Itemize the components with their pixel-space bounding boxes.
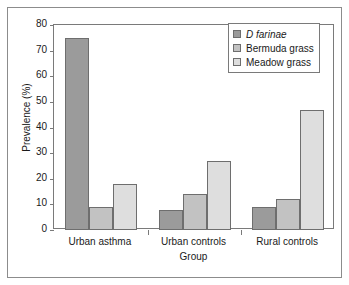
y-axis-tick: 50 <box>14 102 54 103</box>
y-axis-tick-label: 50 <box>36 95 47 106</box>
bar <box>65 38 89 230</box>
x-axis-group-label: Urban controls <box>147 236 241 247</box>
legend-item: D farinae <box>233 27 314 41</box>
y-axis-tick-label: 70 <box>36 44 47 55</box>
y-axis-tick-label: 10 <box>36 197 47 208</box>
y-axis-tick-mark <box>50 230 54 231</box>
y-axis-title: Prevalence (%) <box>21 53 32 183</box>
chart-legend: D farinaeBermuda grassMeadow grass <box>228 23 320 73</box>
bar <box>183 194 207 230</box>
y-axis-tick: 80 <box>14 25 54 26</box>
y-axis-tick-label: 30 <box>36 146 47 157</box>
legend-label: Meadow grass <box>246 57 311 68</box>
bar <box>207 161 231 230</box>
x-axis-tick-mark <box>148 230 149 235</box>
y-axis-tick: 40 <box>14 128 54 129</box>
y-axis-tick: 10 <box>14 204 54 205</box>
y-axis-tick: 0 <box>14 230 54 231</box>
x-axis-group-label: Urban asthma <box>53 236 147 247</box>
bar <box>113 184 137 230</box>
legend-label: D farinae <box>246 29 287 40</box>
legend-label: Bermuda grass <box>246 43 314 54</box>
y-axis-tick: 30 <box>14 153 54 154</box>
x-axis-title: Group <box>53 251 334 262</box>
y-axis-tick-label: 60 <box>36 69 47 80</box>
legend-swatch-icon <box>233 58 241 66</box>
bar <box>159 210 183 231</box>
bar <box>89 207 113 230</box>
y-axis-tick-label: 0 <box>41 223 47 234</box>
bar <box>300 110 324 230</box>
y-axis-tick-label: 20 <box>36 172 47 183</box>
legend-swatch-icon <box>233 44 241 52</box>
x-axis-group-label: Rural controls <box>240 236 334 247</box>
y-axis-tick-label: 80 <box>36 18 47 29</box>
legend-item: Meadow grass <box>233 55 314 69</box>
figure-frame: Prevalence (%) 80706050403020100 Urban a… <box>7 7 342 278</box>
x-axis-tick-mark <box>241 230 242 235</box>
legend-item: Bermuda grass <box>233 41 314 55</box>
y-axis-tick: 20 <box>14 179 54 180</box>
bar <box>252 207 276 230</box>
legend-swatch-icon <box>233 30 241 38</box>
bar <box>276 199 300 230</box>
y-axis-tick: 70 <box>14 51 54 52</box>
y-axis-tick-label: 40 <box>36 121 47 132</box>
y-axis-tick: 60 <box>14 76 54 77</box>
